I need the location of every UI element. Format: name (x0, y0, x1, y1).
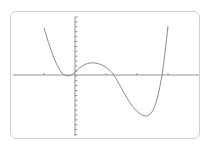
y-axis (75, 17, 78, 136)
x-axis (13, 73, 199, 75)
function-curve (44, 26, 168, 116)
function-plot (0, 0, 205, 151)
